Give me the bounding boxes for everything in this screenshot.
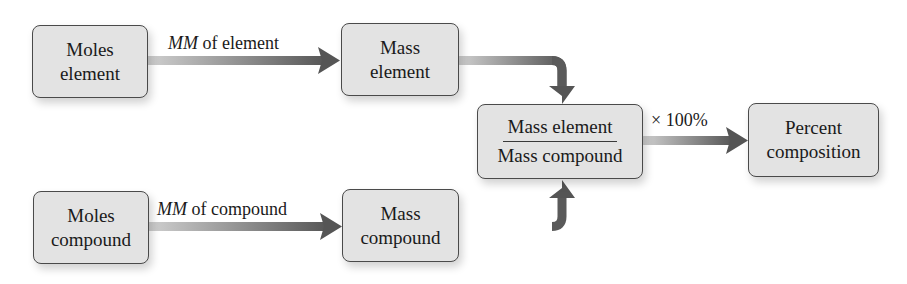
node-moles-element: Moles element — [32, 25, 148, 98]
arrow-mass-element-to-ratio — [459, 61, 575, 105]
node-mass-element: Mass element — [341, 23, 459, 96]
node-label-line1: Mass — [380, 202, 420, 226]
node-mass-compound: Mass compound — [342, 189, 459, 262]
node-label-line1: Moles — [66, 38, 114, 62]
arrow-ratio-to-percent — [643, 127, 748, 154]
edge-label-italic: MM — [157, 199, 187, 219]
node-ratio: Mass element Mass compound — [477, 104, 643, 179]
node-label-line2: element — [60, 62, 120, 86]
node-label-line2: element — [370, 60, 430, 84]
node-label-line2: compound — [51, 228, 131, 252]
node-label-line1: Moles — [67, 204, 115, 228]
edge-label-percent: × 100% — [651, 110, 708, 131]
node-percent-composition: Percent composition — [748, 103, 879, 177]
edge-label-element: MM of element — [168, 33, 279, 54]
ratio-numerator: Mass element — [503, 115, 616, 142]
node-moles-compound: Moles compound — [33, 191, 149, 264]
ratio-denominator: Mass compound — [493, 142, 626, 168]
node-label-line2: composition — [767, 140, 861, 164]
node-label-line2: compound — [360, 226, 440, 250]
edge-label-italic: MM — [168, 33, 198, 53]
node-label-line1: Percent — [785, 116, 842, 140]
edge-label-text: of element — [198, 33, 279, 53]
edge-label-compound: MM of compound — [157, 199, 287, 220]
node-label-line1: Mass — [380, 36, 420, 60]
edge-label-text: of compound — [187, 199, 287, 219]
arrow-mass-compound-to-ratio — [459, 180, 575, 227]
